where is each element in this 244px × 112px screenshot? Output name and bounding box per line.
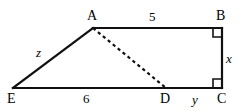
right-angle-B-icon: [213, 28, 222, 37]
geometry-figure: A B C D E 5 6 x y z: [0, 0, 244, 112]
edge-E-A: [13, 28, 93, 88]
vertex-label-A: A: [87, 9, 97, 23]
measure-label-ED: 6: [83, 92, 90, 105]
vertex-label-C: C: [217, 92, 226, 106]
right-angle-C-icon: [213, 79, 222, 88]
edge-A-D: [93, 28, 166, 88]
measure-label-DC: y: [192, 93, 198, 106]
measure-label-EA: z: [36, 46, 41, 59]
vertex-label-D: D: [160, 92, 170, 106]
vertex-label-E: E: [7, 92, 16, 106]
measure-label-BC: x: [226, 52, 232, 65]
measure-label-AB: 5: [149, 10, 156, 23]
vertex-label-B: B: [216, 9, 225, 23]
